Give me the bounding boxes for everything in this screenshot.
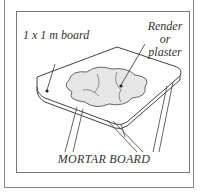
material-label-line1: Render or: [141, 20, 189, 46]
figure-frame: 1 x 1 m board Render or plaster MORTAR B…: [4, 0, 194, 188]
board-label: 1 x 1 m board: [23, 29, 89, 42]
illustration-panel: 1 x 1 m board Render or plaster MORTAR B…: [16, 11, 190, 173]
material-label: Render or plaster: [141, 20, 189, 59]
material-label-line2: plaster: [141, 46, 189, 59]
figure-caption: MORTAR BOARD: [17, 152, 191, 167]
